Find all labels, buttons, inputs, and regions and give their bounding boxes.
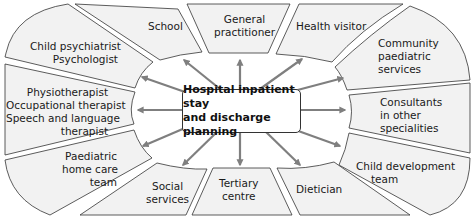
node-gp: General practitioner <box>214 13 275 39</box>
node-psych-line1: Child psychiatrist <box>30 40 118 53</box>
node-child-dev: Child development team <box>356 160 455 186</box>
node-school: School <box>148 20 183 33</box>
node-dietician: Dietician <box>296 183 342 196</box>
node-therapists: Physiotherapist Occupational therapist S… <box>6 86 108 138</box>
center-node: Hospital inpatient stay and discharge pl… <box>182 89 301 133</box>
node-paed-home: Paediatric home care team <box>62 150 117 189</box>
node-therapists-line2: Occupational therapist <box>6 99 108 112</box>
node-dietician-label: Dietician <box>296 183 342 195</box>
node-child-dev-line2: team <box>356 173 455 186</box>
node-consultants-line2: in other <box>380 109 442 122</box>
node-community-paed-line2: paediatric <box>378 50 439 63</box>
node-social: Social services <box>146 180 189 206</box>
node-community-paed: Community paediatric services <box>378 37 439 76</box>
node-child-dev-line1: Child development <box>356 160 455 173</box>
node-therapists-line4: therapist <box>6 125 108 138</box>
center-label-line2: and discharge planning <box>183 111 300 139</box>
node-tertiary-line1: Tertiary <box>219 177 258 190</box>
node-paed-home-line2: home care <box>62 163 117 176</box>
node-school-label: School <box>148 20 183 32</box>
node-health-visitor: Health visitor <box>296 20 366 33</box>
node-therapists-line3: Speech and language <box>6 112 108 125</box>
node-health-visitor-label: Health visitor <box>296 20 366 32</box>
node-paed-home-line1: Paediatric <box>62 150 117 163</box>
node-gp-line1: General <box>214 13 275 26</box>
node-therapists-line1: Physiotherapist <box>6 86 108 99</box>
node-paed-home-line3: team <box>62 176 117 189</box>
center-label-line1: Hospital inpatient stay <box>183 83 300 111</box>
node-gp-line2: practitioner <box>214 26 275 39</box>
node-tertiary-line2: centre <box>219 190 258 203</box>
node-community-paed-line1: Community <box>378 37 439 50</box>
node-psych: Child psychiatrist Psychologist <box>30 40 118 66</box>
node-social-line1: Social <box>146 180 189 193</box>
node-consultants: Consultants in other specialities <box>380 96 442 135</box>
node-consultants-line1: Consultants <box>380 96 442 109</box>
node-social-line2: services <box>146 193 189 206</box>
node-consultants-line3: specialities <box>380 122 442 135</box>
node-psych-line2: Psychologist <box>30 53 118 66</box>
node-tertiary: Tertiary centre <box>219 177 258 203</box>
node-community-paed-line3: services <box>378 63 439 76</box>
